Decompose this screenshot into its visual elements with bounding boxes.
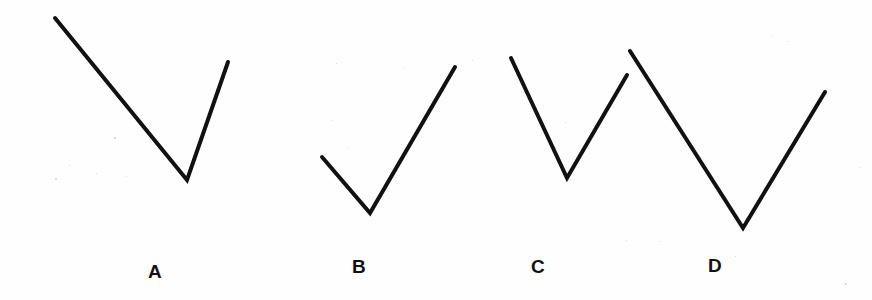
shape-label-b: B xyxy=(352,257,366,276)
chevron-shape-a xyxy=(55,18,228,180)
figure-canvas: A B C D xyxy=(0,0,872,300)
chevron-shape-c xyxy=(511,58,627,178)
shape-label-c: C xyxy=(531,257,545,276)
chevron-figures-svg xyxy=(0,0,872,300)
shape-label-d: D xyxy=(708,256,722,275)
chevron-shape-b xyxy=(322,67,455,213)
chevron-shape-d xyxy=(630,51,825,228)
shape-label-a: A xyxy=(148,262,162,281)
